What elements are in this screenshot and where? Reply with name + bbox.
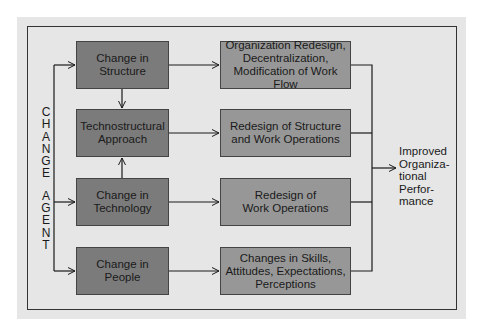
approach-technology: Change in Technology [76,178,169,226]
improved-performance-label: Improved Organiza- tional Perfor- mance [399,145,450,208]
change-agent-label: C H A N G E A G E N T [40,106,52,251]
letter: E [40,167,52,179]
approach-structure: Change in Structure [76,41,169,89]
letter: E [40,214,52,226]
approach-people: Change in People [76,247,169,295]
outcome-work-operations: Redesign of Work Operations [220,178,351,226]
approach-technostructural: Technostructural Approach [76,109,169,157]
outcome-skills-attitudes: Changes in Skills, Attitudes, Expectatio… [220,247,351,295]
outcome-structure-work-operations: Redesign of Structure and Work Operation… [220,109,351,157]
letter: T [40,239,52,251]
letter: H [40,118,52,130]
outcome-organization-redesign: Organization Redesign, Decentralization,… [220,41,351,89]
